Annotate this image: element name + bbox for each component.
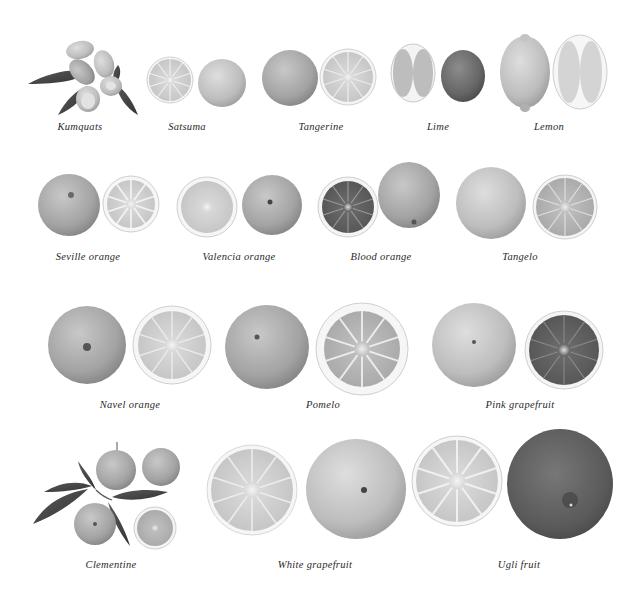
pink-grapefruit-illustration [432, 303, 603, 389]
seville-orange-illustration [38, 174, 159, 236]
label-satsuma: Satsuma [168, 121, 206, 132]
label-kumquats: Kumquats [58, 121, 103, 132]
kumquats-illustration [28, 39, 138, 115]
navel-orange-illustration [48, 306, 211, 384]
kumquat-whole [65, 39, 96, 62]
label-seville-orange: Seville orange [56, 251, 121, 262]
tangelo-illustration [456, 167, 597, 239]
seville-orange-whole [38, 174, 100, 236]
tangerine-illustration [262, 49, 376, 106]
pomelo-illustration [225, 303, 408, 395]
lime-illustration [391, 44, 485, 102]
ugli-fruit-illustration [412, 429, 613, 539]
blood-orange-illustration [318, 162, 440, 237]
white-grapefruit-whole [306, 439, 406, 539]
label-lime: Lime [427, 121, 449, 132]
tangelo-whole [456, 167, 526, 239]
clementine-whole [142, 448, 180, 486]
valencia-orange-illustration [177, 175, 302, 237]
citrus-plate [0, 0, 620, 594]
label-valencia-orange: Valencia orange [202, 251, 275, 262]
tangerine-whole [262, 50, 318, 106]
satsuma-whole [198, 59, 246, 107]
ugli-fruit-whole [507, 429, 613, 539]
label-navel-orange: Navel orange [100, 399, 160, 410]
blood-orange-whole [378, 162, 440, 228]
clementine-whole [96, 450, 136, 490]
label-pink-grapefruit: Pink grapefruit [486, 399, 555, 410]
pink-grapefruit-whole [432, 303, 516, 387]
label-blood-orange: Blood orange [350, 251, 411, 262]
white-grapefruit-illustration [207, 439, 406, 539]
label-ugli-fruit: Ugli fruit [498, 559, 540, 570]
pomelo-whole [225, 305, 309, 389]
label-pomelo: Pomelo [306, 399, 340, 410]
label-clementine: Clementine [86, 559, 137, 570]
leaf-icon [112, 490, 168, 500]
label-tangelo: Tangelo [502, 251, 538, 262]
lemon-whole [500, 36, 550, 108]
label-white-grapefruit: White grapefruit [278, 559, 353, 570]
label-lemon: Lemon [534, 121, 564, 132]
valencia-orange-whole [242, 175, 302, 235]
label-tangerine: Tangerine [299, 121, 344, 132]
lime-whole [441, 50, 485, 102]
lemon-illustration [500, 34, 607, 112]
satsuma-illustration [147, 57, 246, 107]
clementine-illustration [33, 442, 180, 549]
